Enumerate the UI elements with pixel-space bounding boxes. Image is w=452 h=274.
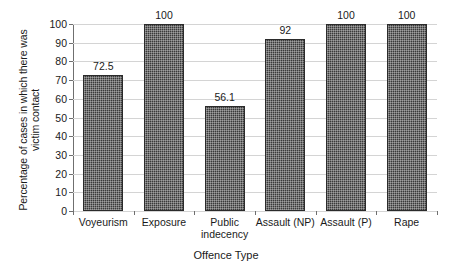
y-axis-tick-label: 70: [27, 75, 67, 85]
x-axis-tick-mark: [437, 211, 438, 215]
bar: [205, 106, 245, 211]
bar: [326, 24, 366, 211]
gridline: [73, 43, 437, 44]
gridline: [73, 174, 437, 175]
x-axis-tick-mark: [73, 211, 74, 215]
bar-value-label: 100: [377, 10, 437, 21]
y-axis-tick-label: 90: [27, 38, 67, 48]
gridline: [73, 192, 437, 193]
bar-value-label: 92: [255, 25, 315, 36]
y-axis-tick-label: 40: [27, 131, 67, 141]
x-axis-tick-mark: [134, 211, 135, 215]
y-axis-tick-label: 10: [27, 187, 67, 197]
gridline: [73, 99, 437, 100]
y-axis-tick-label: 100: [27, 19, 67, 29]
gridline: [73, 118, 437, 119]
bar-value-label: 72.5: [73, 61, 133, 72]
x-axis-tick-mark: [255, 211, 256, 215]
x-axis-category-label: Rape: [364, 216, 450, 228]
bar-value-label: 100: [316, 10, 376, 21]
gridline: [73, 80, 437, 81]
bar: [387, 24, 427, 211]
x-axis-category-label-line: indecency: [182, 228, 268, 240]
y-axis-tick-label: 80: [27, 56, 67, 66]
y-axis-tick-label: 0: [27, 206, 67, 216]
gridline: [73, 136, 437, 137]
x-axis-tick-mark: [316, 211, 317, 215]
bar-chart: Percentage of cases in which there was v…: [0, 0, 452, 274]
bar: [265, 39, 305, 211]
bar-value-label: 56.1: [195, 92, 255, 103]
bar: [83, 75, 123, 211]
y-axis-tick-label: 60: [27, 94, 67, 104]
bar-value-label: 100: [134, 10, 194, 21]
x-axis-tick-mark: [194, 211, 195, 215]
x-axis-category-label-line: Rape: [364, 216, 450, 228]
y-axis-tick-label: 30: [27, 150, 67, 160]
y-axis-tick-label: 20: [27, 169, 67, 179]
x-axis-tick-mark: [376, 211, 377, 215]
gridline: [73, 155, 437, 156]
y-axis-tick-label: 50: [27, 113, 67, 123]
bar: [144, 24, 184, 211]
x-axis-title: Offence Type: [0, 249, 452, 261]
plot-area: [73, 24, 437, 211]
